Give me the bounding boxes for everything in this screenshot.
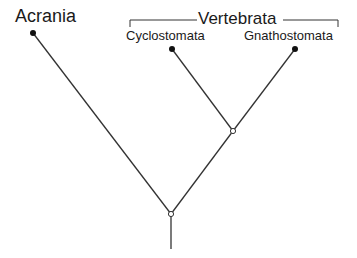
node-vertebrata (230, 128, 235, 133)
terminal-dot-cyclostomata (169, 46, 175, 52)
branch-acrania (33, 33, 171, 214)
vertebrata-bracket-left (130, 20, 197, 27)
terminal-dot-acrania (30, 30, 36, 36)
branch-vertebrata (171, 131, 233, 214)
branch-gnathostomata (233, 49, 295, 131)
node-root (168, 211, 173, 216)
branch-cyclostomata (172, 49, 233, 131)
terminal-dot-gnathostomata (292, 46, 298, 52)
label-cyclostomata: Cyclostomata (126, 28, 205, 43)
label-acrania: Acrania (15, 6, 76, 27)
label-vertebrata: Vertebrata (198, 9, 276, 29)
vertebrata-bracket-right (283, 20, 338, 27)
label-gnathostomata: Gnathostomata (244, 28, 333, 43)
